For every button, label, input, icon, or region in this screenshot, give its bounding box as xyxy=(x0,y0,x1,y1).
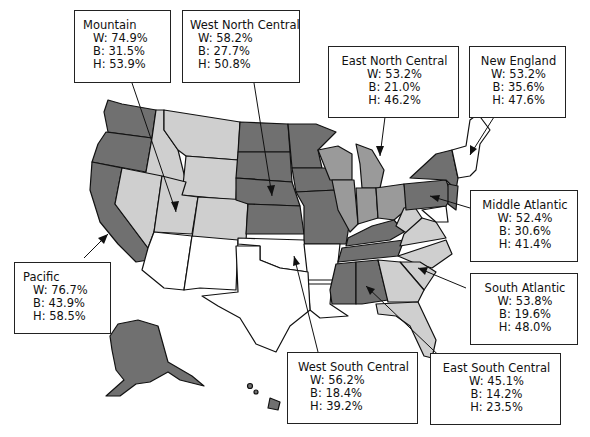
callout-west-south-central: West South Central W: 56.2% B: 18.4% H: … xyxy=(287,352,418,424)
state-wyoming xyxy=(182,156,238,200)
state-south-dakota xyxy=(236,152,292,182)
callout-west-north-central: West North Central W: 58.2% B: 27.7% H: … xyxy=(182,10,300,83)
callout-middle-atlantic: Middle Atlantic W: 52.4% B: 30.6% H: 41.… xyxy=(470,190,578,262)
hispanic-value: H: 53.9% xyxy=(93,58,164,71)
state-new-mexico xyxy=(184,236,238,290)
hispanic-value: H: 46.2% xyxy=(337,94,452,107)
hispanic-value: H: 23.5% xyxy=(439,401,554,414)
state-florida xyxy=(376,302,436,358)
state-hawaii xyxy=(268,398,280,410)
callout-south-atlantic: South Atlantic W: 53.8% B: 19.6% H: 48.0… xyxy=(470,273,578,345)
hispanic-value: H: 50.8% xyxy=(198,58,293,71)
state-kansas xyxy=(246,204,304,234)
hispanic-value: H: 47.6% xyxy=(478,94,559,107)
hispanic-value: H: 41.4% xyxy=(479,238,571,251)
callout-east-north-central: East North Central W: 53.2% B: 21.0% H: … xyxy=(328,46,459,118)
state-colorado xyxy=(192,197,248,242)
state-new-jersey xyxy=(448,184,458,210)
hispanic-value: H: 58.5% xyxy=(33,310,104,323)
state-indiana xyxy=(356,188,378,224)
state-hawaii-island xyxy=(254,390,258,394)
arrowhead xyxy=(376,146,384,156)
state-nebraska xyxy=(236,178,300,206)
state-alaska xyxy=(106,320,204,396)
hispanic-value: H: 39.2% xyxy=(310,400,411,413)
callout-pacific: Pacific W: 76.7% B: 43.9% H: 58.5% xyxy=(14,262,111,334)
state-pennsylvania xyxy=(404,180,452,210)
callout-new-england: New England W: 53.2% B: 35.6% H: 47.6% xyxy=(469,46,566,118)
callout-mountain: Mountain W: 74.9% B: 31.5% H: 53.9% xyxy=(74,10,171,83)
state-hawaii-island xyxy=(248,384,253,389)
callout-east-south-central: East South Central W: 45.1% B: 14.2% H: … xyxy=(430,353,561,425)
hispanic-value: H: 48.0% xyxy=(479,321,571,334)
